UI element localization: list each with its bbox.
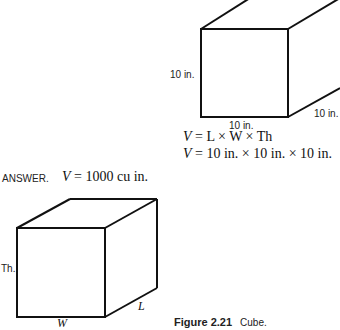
bottom-length-label: L [138, 299, 145, 314]
top-cube [201, 0, 340, 117]
top-length-label: 10 in. [314, 108, 338, 119]
formula-line-2: V = 10 in. × 10 in. × 10 in. [183, 146, 332, 162]
bottom-cube [17, 199, 157, 317]
figure-caption: Figure 2.21Cube. [174, 316, 267, 328]
answer-value: V = 1000 cu in. [62, 169, 148, 185]
bottom-height-label: Th. [1, 263, 15, 274]
cube-diagrams [0, 0, 340, 330]
top-height-label: 10 in. [170, 69, 194, 80]
bottom-width-label: W [57, 316, 67, 330]
answer-label: ANSWER. [2, 173, 49, 184]
formula-line-1: V = L × W × Th [183, 129, 272, 145]
